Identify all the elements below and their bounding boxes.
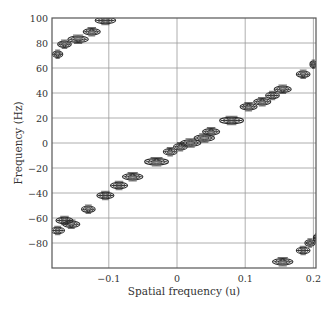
y-tick-label: −40 <box>28 188 48 199</box>
y-axis-label: Frequency (Hz) <box>12 101 24 184</box>
contour-chart: −0.100.10.2 100806040200−20−40−60−80 Spa… <box>0 0 328 310</box>
x-tick-label: 0.2 <box>306 273 321 284</box>
y-tick-label: 20 <box>36 113 48 124</box>
contour-blob <box>296 246 310 254</box>
contour-blob <box>220 116 244 124</box>
contour-blob <box>51 226 65 234</box>
contour-blob <box>272 258 292 266</box>
x-tick-label: −0.1 <box>97 273 120 284</box>
y-tick-label: −80 <box>28 238 48 249</box>
y-tick-label: 40 <box>36 88 48 99</box>
contour-blob <box>83 28 100 36</box>
y-tick-label: 80 <box>36 38 48 49</box>
contour-blob <box>53 50 63 58</box>
x-axis-label: Spatial frequency (u) <box>128 285 240 297</box>
y-tick-label: 0 <box>42 138 48 149</box>
contour-blobs <box>51 16 320 266</box>
contour-blob <box>56 216 73 224</box>
contour-blob <box>313 234 320 242</box>
contour-blob <box>122 173 142 181</box>
contour-blob <box>296 70 310 78</box>
y-axis-ticks: 100806040200−20−40−60−80 <box>28 13 48 249</box>
y-tick-label: −60 <box>28 213 48 224</box>
contour-blob <box>68 35 88 43</box>
y-tick-label: 60 <box>36 63 48 74</box>
x-tick-label: 0.1 <box>238 273 253 284</box>
contour-blob <box>63 220 80 228</box>
contour-blob <box>145 158 169 166</box>
contour-blob <box>274 85 291 93</box>
contour-blob <box>266 91 280 99</box>
contour-blob <box>97 191 114 199</box>
x-axis-ticks: −0.100.10.2 <box>97 273 321 284</box>
y-tick-label: 100 <box>30 13 48 24</box>
contour-blob <box>82 205 96 213</box>
y-tick-label: −20 <box>28 163 48 174</box>
x-tick-label: 0 <box>174 273 180 284</box>
contour-blob <box>111 181 128 189</box>
